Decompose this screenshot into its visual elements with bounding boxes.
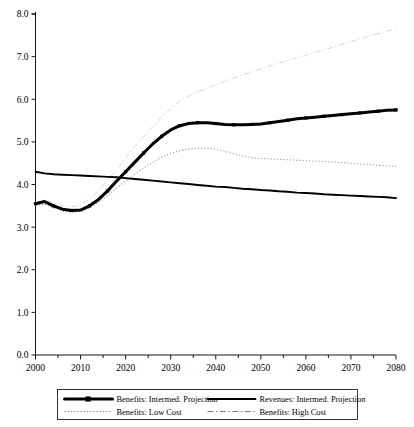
legend-label: Revenues: Intermed. Projection (260, 395, 367, 404)
y-axis-ticks (32, 14, 36, 355)
series-marker (52, 204, 55, 207)
x-tick-label: 2070 (341, 363, 360, 373)
legend-label: Benefits: High Cost (260, 408, 327, 417)
series-marker (70, 209, 73, 212)
x-axis-ticks (36, 355, 397, 360)
legend-item[interactable]: Revenues: Intermed. Projection (208, 395, 367, 404)
series-marker (376, 110, 379, 113)
series-marker (304, 116, 307, 119)
legend-label: Benefits: Intermed. Projection (117, 395, 219, 404)
series-marker (250, 123, 253, 126)
series-marker (106, 189, 109, 192)
series-marker (286, 119, 289, 122)
legend-item[interactable]: Benefits: High Cost (208, 408, 327, 417)
series-line (36, 148, 397, 212)
legend-marker (86, 396, 91, 401)
series-marker (232, 123, 235, 126)
y-tick-label: 7.0 (17, 52, 29, 62)
y-tick-label: 1.0 (17, 308, 29, 318)
y-tick-label: 6.0 (17, 95, 29, 105)
x-tick-label: 2000 (26, 363, 45, 373)
x-tick-label: 2010 (71, 363, 90, 373)
legend-item[interactable]: Benefits: Low Cost (65, 408, 183, 417)
series-marker (160, 135, 163, 138)
legend-label: Benefits: Low Cost (117, 408, 183, 417)
x-tick-label: 2060 (296, 363, 315, 373)
series-marker (142, 151, 145, 154)
line-chart: 0.01.02.03.04.05.06.07.08.0 200020102020… (0, 0, 414, 427)
y-tick-label: 0.0 (17, 350, 29, 360)
y-axis-tick-labels: 0.01.02.03.04.05.06.07.08.0 (17, 9, 29, 360)
y-tick-label: 5.0 (17, 137, 29, 147)
x-tick-label: 2020 (116, 363, 135, 373)
series-line (36, 29, 397, 207)
x-axis-tick-labels: 200020102020203020402050206020702080 (26, 363, 406, 373)
x-tick-label: 2030 (161, 363, 180, 373)
series-marker (34, 202, 37, 205)
data-series-layer (34, 29, 398, 212)
x-tick-label: 2040 (206, 363, 225, 373)
series-line (36, 172, 397, 198)
chart-legend: Benefits: Intermed. ProjectionRevenues: … (58, 390, 367, 420)
x-tick-label: 2050 (251, 363, 270, 373)
chart-container: 0.01.02.03.04.05.06.07.08.0 200020102020… (0, 0, 414, 427)
x-tick-label: 2080 (387, 363, 406, 373)
series-marker (394, 108, 397, 111)
y-tick-label: 2.0 (17, 265, 29, 275)
series-marker (322, 115, 325, 118)
series-marker (340, 113, 343, 116)
series-marker (268, 121, 271, 124)
series-marker (88, 204, 91, 207)
series-marker (124, 170, 127, 173)
series-marker (196, 121, 199, 124)
series-marker (178, 124, 181, 127)
series-marker (358, 111, 361, 114)
legend-item[interactable]: Benefits: Intermed. Projection (65, 395, 219, 404)
y-tick-label: 8.0 (17, 9, 29, 19)
y-tick-label: 3.0 (17, 223, 29, 233)
y-tick-label: 4.0 (17, 180, 29, 190)
series-marker (214, 122, 217, 125)
